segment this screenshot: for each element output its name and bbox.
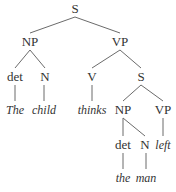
- word-w-man: man: [136, 171, 157, 185]
- node-v1: V: [87, 69, 97, 84]
- node-s1: S: [71, 1, 78, 16]
- node-np2: NP: [115, 102, 132, 117]
- node-s2: S: [137, 69, 144, 84]
- edge-vp1-to-v1: [92, 50, 120, 68]
- word-w-left: left: [155, 138, 171, 152]
- edge-s2-to-vp2: [141, 85, 163, 101]
- node-n2: N: [140, 137, 150, 152]
- word-w-child: child: [32, 103, 57, 117]
- edge-vp1-to-s2: [120, 50, 141, 68]
- syntax-tree: SNPVPdetNVSThechildthinksNPVPdetNleftthe…: [0, 0, 176, 192]
- node-n1: N: [40, 69, 50, 84]
- node-vp2: VP: [155, 102, 172, 117]
- edge-np1-to-n1: [30, 50, 45, 68]
- edge-s2-to-np2: [123, 85, 141, 101]
- edge-s1-to-vp1: [75, 17, 120, 33]
- word-w-the1: The: [6, 103, 25, 117]
- node-vp1: VP: [112, 34, 129, 49]
- edge-np2-to-n2: [123, 118, 145, 136]
- edge-s1-to-np1: [30, 17, 75, 33]
- word-w-the2: the: [116, 171, 131, 185]
- word-w-thinks: thinks: [78, 103, 107, 117]
- tree-nodes: SNPVPdetNVSThechildthinksNPVPdetNleftthe…: [6, 1, 171, 185]
- node-np1: NP: [22, 34, 39, 49]
- node-det2: det: [115, 137, 131, 152]
- node-det1: det: [7, 69, 23, 84]
- edge-np1-to-det1: [15, 50, 30, 68]
